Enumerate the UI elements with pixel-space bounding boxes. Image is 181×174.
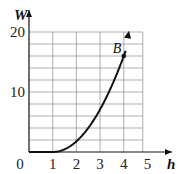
y-tick-label: 20: [10, 24, 25, 40]
x-axis-arrow-icon: [165, 149, 172, 155]
x-tick-label: 0: [16, 156, 24, 172]
series-line: [29, 51, 126, 152]
chart: 0123451020 B h W: [0, 0, 181, 174]
y-axis-label: W: [14, 7, 29, 23]
x-tick-label: 2: [73, 156, 81, 172]
x-tick-label: 1: [49, 156, 57, 172]
grid: [29, 32, 143, 152]
y-tick-label: 10: [10, 84, 25, 100]
x-tick-label: 3: [96, 156, 104, 172]
x-tick-label: 5: [144, 156, 152, 172]
x-axis-label: h: [167, 156, 175, 172]
x-tick-label: 4: [120, 156, 128, 172]
point-b-label: B: [113, 41, 122, 56]
point-b: [122, 54, 127, 59]
tick-labels: 0123451020: [10, 24, 151, 172]
